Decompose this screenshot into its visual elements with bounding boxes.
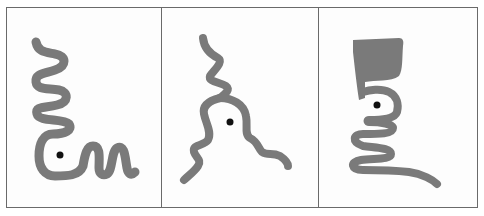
- panel-3-dot: [374, 102, 381, 109]
- panel-3-shape: [319, 8, 477, 207]
- panel-2-upper-arm: [203, 38, 228, 98]
- panel-2-left-arm: [184, 98, 220, 180]
- panel-1: [7, 8, 161, 207]
- panel-3-tube: [353, 90, 437, 184]
- panel-2-right-arm: [220, 98, 288, 166]
- panel-3: [319, 8, 477, 207]
- panel-2-dot: [227, 119, 234, 126]
- panel-2: [162, 8, 318, 207]
- panel-1-dot: [57, 152, 64, 159]
- diagram-figure: [6, 7, 478, 208]
- panel-1-shape: [7, 8, 161, 207]
- panel-1-tube: [36, 42, 135, 176]
- panel-2-shape: [162, 8, 318, 207]
